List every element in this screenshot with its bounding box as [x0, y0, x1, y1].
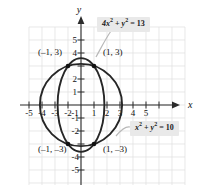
graph-figure: -5 -4 -3 -2 -1 1 2 3 4 5 5 4 2 1 -1 -2 -… [0, 0, 205, 193]
x-tick-label: -5 [25, 108, 33, 118]
circle-eq-rhs: = 10 [157, 123, 174, 132]
y-tick-label: -5 [72, 165, 80, 175]
ellipse-eq-rhs: = 13 [128, 19, 145, 28]
ellipse-eq-plus: + [113, 19, 122, 28]
y-tick-label: 2 [73, 74, 78, 84]
point-marker [66, 64, 71, 69]
x-axis-label: x [187, 99, 193, 110]
y-tick-label: 1 [73, 87, 78, 97]
circle-equation-callout: x2 + y2 = 10 [130, 121, 179, 136]
point-label-bottom-left: (–1, –3) [38, 145, 67, 154]
y-tick-label: 5 [73, 35, 78, 45]
point-label-bottom-right: (1, –3) [103, 145, 127, 154]
x-tick-label: 1 [92, 108, 97, 118]
x-tick-label: 2 [105, 108, 110, 118]
point-marker [92, 142, 97, 147]
point-label-top-left: (–1, 3) [38, 48, 62, 57]
x-tick-labels: -5 -4 -3 -2 -1 1 2 3 4 5 [25, 108, 149, 118]
y-tick-label: -1 [72, 113, 80, 123]
circle-callout-leader [116, 127, 130, 136]
ellipse-equation-callout: 4x2 + y2 = 13 [97, 17, 150, 32]
x-tick-label: 4 [131, 108, 136, 118]
y-tick-label: 4 [73, 48, 78, 58]
circle-eq-plus: + [142, 123, 151, 132]
point-label-top-right: (1, 3) [103, 48, 123, 57]
y-tick-label: -4 [72, 152, 80, 162]
y-tick-label: -2 [72, 126, 80, 136]
y-axis-label: y [76, 4, 82, 15]
point-marker [92, 64, 97, 69]
x-tick-label: 5 [144, 108, 149, 118]
